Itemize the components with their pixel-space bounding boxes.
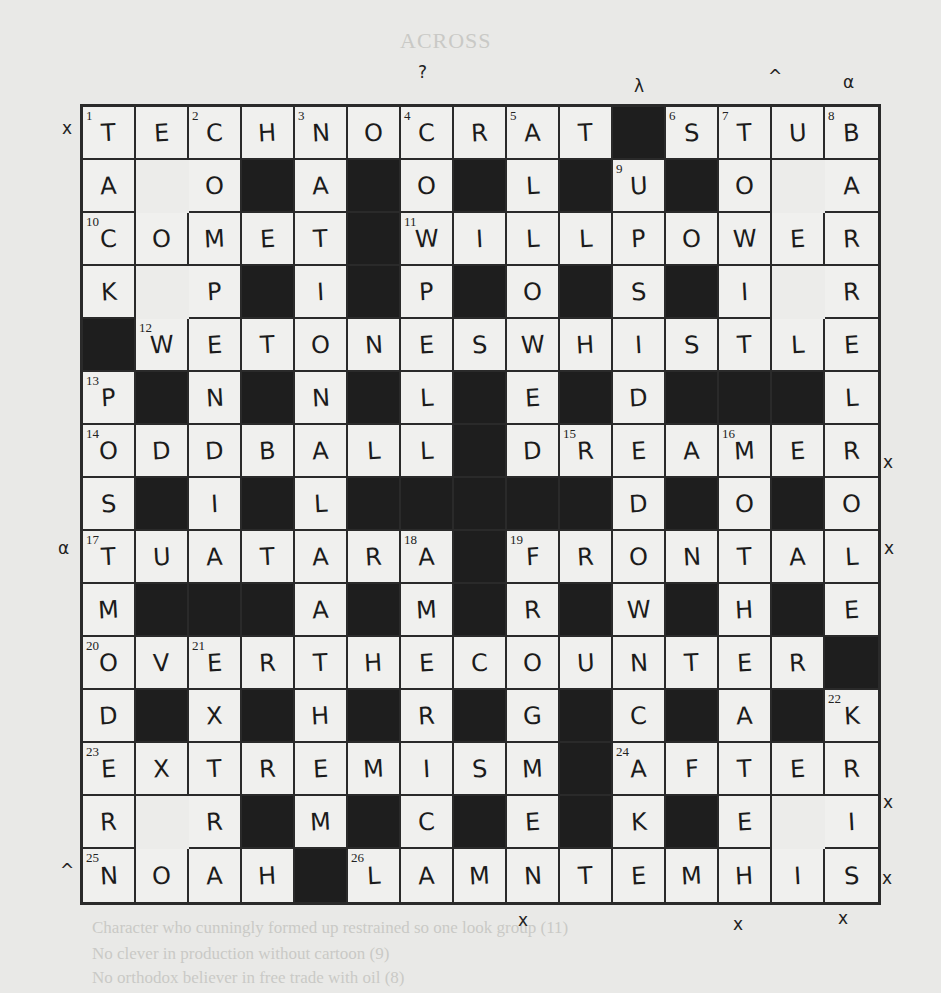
letter-cell[interactable]: E [242,213,295,266]
letter-cell[interactable]: S [825,849,878,902]
letter-cell[interactable]: N [348,319,401,372]
letter-cell[interactable]: O [719,478,772,531]
letter-cell[interactable]: L [507,213,560,266]
letter-cell[interactable]: E [401,319,454,372]
letter-cell[interactable]: O [507,266,560,319]
letter-cell[interactable]: D [136,425,189,478]
letter-cell[interactable]: N [507,849,560,902]
letter-cell[interactable]: 26L [348,849,401,902]
letter-cell[interactable]: I [189,478,242,531]
letter-cell[interactable]: N [295,372,348,425]
letter-cell[interactable]: E [825,319,878,372]
letter-cell[interactable]: E [825,584,878,637]
letter-cell[interactable]: 5A [507,107,560,160]
letter-cell[interactable]: R [772,637,825,690]
letter-cell[interactable]: R [83,796,136,849]
letter-cell[interactable]: 16M [719,425,772,478]
letter-cell[interactable]: H [242,849,295,902]
letter-cell[interactable]: R [242,637,295,690]
letter-cell[interactable]: E [772,743,825,796]
letter-cell[interactable]: P [189,266,242,319]
letter-cell[interactable]: R [507,584,560,637]
letter-cell[interactable]: T [295,213,348,266]
letter-cell[interactable]: O [825,478,878,531]
letter-cell[interactable]: E [136,107,189,160]
letter-cell[interactable]: D [613,478,666,531]
letter-cell[interactable]: V [136,637,189,690]
letter-cell[interactable]: E [401,637,454,690]
letter-cell[interactable]: O [189,160,242,213]
letter-cell[interactable]: A [295,160,348,213]
letter-cell[interactable]: 21E [189,637,242,690]
letter-cell[interactable]: 19F [507,531,560,584]
letter-cell[interactable]: M [666,849,719,902]
letter-cell[interactable]: 9U [613,160,666,213]
letter-cell[interactable]: M [507,743,560,796]
letter-cell[interactable]: F [666,743,719,796]
letter-cell[interactable]: M [454,849,507,902]
letter-cell[interactable]: O [507,637,560,690]
letter-cell[interactable]: 2C [189,107,242,160]
letter-cell[interactable]: S [83,478,136,531]
letter-cell[interactable]: C [613,690,666,743]
letter-cell[interactable]: O [348,107,401,160]
letter-cell[interactable]: A [772,531,825,584]
letter-cell[interactable]: P [613,213,666,266]
letter-cell[interactable]: L [560,213,613,266]
letter-cell[interactable]: A [719,690,772,743]
letter-cell[interactable]: A [189,849,242,902]
letter-cell[interactable]: 7T [719,107,772,160]
letter-cell[interactable]: A [401,849,454,902]
letter-cell[interactable]: H [295,690,348,743]
blank-cell[interactable] [772,160,825,213]
letter-cell[interactable]: A [295,584,348,637]
letter-cell[interactable]: R [242,743,295,796]
letter-cell[interactable]: L [825,372,878,425]
letter-cell[interactable]: 1T [83,107,136,160]
letter-cell[interactable]: O [666,213,719,266]
letter-cell[interactable]: E [507,796,560,849]
letter-cell[interactable]: L [295,478,348,531]
letter-cell[interactable]: U [136,531,189,584]
letter-cell[interactable]: X [136,743,189,796]
letter-cell[interactable]: 17T [83,531,136,584]
letter-cell[interactable]: 20O [83,637,136,690]
letter-cell[interactable]: U [772,107,825,160]
letter-cell[interactable]: I [454,213,507,266]
letter-cell[interactable]: 11W [401,213,454,266]
letter-cell[interactable]: R [825,266,878,319]
letter-cell[interactable]: M [348,743,401,796]
letter-cell[interactable]: S [613,266,666,319]
blank-cell[interactable] [136,796,189,849]
letter-cell[interactable]: H [348,637,401,690]
letter-cell[interactable]: E [772,425,825,478]
letter-cell[interactable]: 8B [825,107,878,160]
letter-cell[interactable]: M [401,584,454,637]
letter-cell[interactable]: N [666,531,719,584]
letter-cell[interactable]: A [825,160,878,213]
letter-cell[interactable]: E [507,372,560,425]
letter-cell[interactable]: T [719,319,772,372]
letter-cell[interactable]: L [348,425,401,478]
letter-cell[interactable]: I [401,743,454,796]
letter-cell[interactable]: W [507,319,560,372]
letter-cell[interactable]: A [666,425,719,478]
letter-cell[interactable]: T [560,849,613,902]
letter-cell[interactable]: 6S [666,107,719,160]
letter-cell[interactable]: W [613,584,666,637]
letter-cell[interactable]: C [401,796,454,849]
letter-cell[interactable]: O [613,531,666,584]
letter-cell[interactable]: R [189,796,242,849]
blank-cell[interactable] [136,160,189,213]
blank-cell[interactable] [772,796,825,849]
letter-cell[interactable]: M [83,584,136,637]
letter-cell[interactable]: H [560,319,613,372]
letter-cell[interactable]: A [295,531,348,584]
letter-cell[interactable]: L [507,160,560,213]
letter-cell[interactable]: T [242,531,295,584]
letter-cell[interactable]: 12W [136,319,189,372]
letter-cell[interactable]: E [295,743,348,796]
letter-cell[interactable]: E [719,637,772,690]
letter-cell[interactable]: T [189,743,242,796]
letter-cell[interactable]: R [348,531,401,584]
